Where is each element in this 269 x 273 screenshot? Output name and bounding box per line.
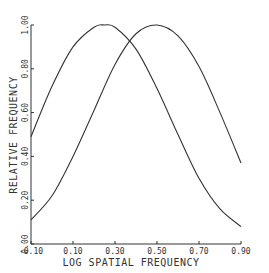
y-axis-title: RELATIVE FREQUENCY (8, 76, 19, 193)
curves (31, 25, 241, 227)
x-tick-label: 0.30 (105, 247, 124, 256)
curve-left (31, 25, 241, 227)
y-tick-labels: 0.000.200.400.600.801.00 (21, 15, 30, 253)
x-tick-label: 0.90 (231, 247, 250, 256)
y-tick-label: 0.20 (21, 190, 30, 209)
chart: 0.000.200.400.600.801.00 -0.100.100.300.… (0, 0, 269, 273)
x-tick-label: 0.70 (189, 247, 208, 256)
axes (31, 25, 241, 244)
x-tick-label: 0.10 (63, 247, 82, 256)
x-axis-title: LOG SPATIAL FREQUENCY (63, 257, 200, 268)
y-tick-label: 0.80 (21, 59, 30, 78)
x-tick-label: 0.50 (147, 247, 166, 256)
x-tick-label: -0.10 (19, 247, 43, 256)
curve-right (31, 25, 241, 220)
y-tick-label: 0.60 (21, 103, 30, 122)
x-tick-labels: -0.100.100.300.500.700.90 (19, 247, 251, 256)
y-tick-label: 0.40 (21, 147, 30, 166)
y-tick-label: 1.00 (21, 15, 30, 34)
